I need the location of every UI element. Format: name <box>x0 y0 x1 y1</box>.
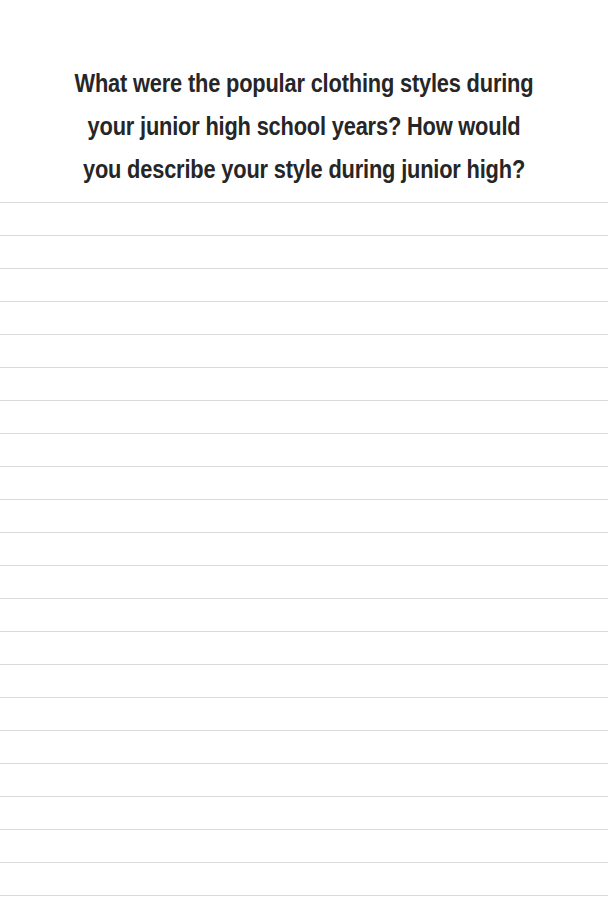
writing-rule-line <box>0 895 608 896</box>
writing-rule-line <box>0 598 608 599</box>
writing-rule-line <box>0 466 608 467</box>
writing-rule-line <box>0 433 608 434</box>
writing-rule-line <box>0 697 608 698</box>
writing-rule-line <box>0 334 608 335</box>
writing-rule-line <box>0 268 608 269</box>
writing-rule-line <box>0 796 608 797</box>
writing-rule-line <box>0 829 608 830</box>
writing-rule-line <box>0 367 608 368</box>
writing-rule-line <box>0 565 608 566</box>
journal-page: What were the popular clothing styles du… <box>0 0 608 919</box>
writing-rule-line <box>0 400 608 401</box>
writing-rule-line <box>0 763 608 764</box>
writing-rule-line <box>0 631 608 632</box>
writing-rule-line <box>0 301 608 302</box>
writing-rule-line <box>0 862 608 863</box>
prompt-question: What were the popular clothing styles du… <box>73 62 535 191</box>
writing-rule-line <box>0 202 608 203</box>
writing-rule-line <box>0 499 608 500</box>
writing-rule-line <box>0 235 608 236</box>
writing-rule-line <box>0 664 608 665</box>
writing-rule-line <box>0 532 608 533</box>
writing-rule-line <box>0 730 608 731</box>
prompt-block: What were the popular clothing styles du… <box>0 62 608 191</box>
